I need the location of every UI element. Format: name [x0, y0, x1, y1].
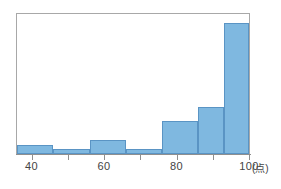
- histogram-bar: [90, 140, 126, 154]
- x-axis-tick-label: 60: [84, 160, 124, 172]
- histogram-chart: 406080100 (点): [0, 0, 281, 189]
- x-axis-tick: [68, 155, 69, 160]
- x-axis-tick: [213, 155, 214, 160]
- x-axis-unit-label: (点): [252, 160, 269, 175]
- x-axis-tick-label: 40: [12, 160, 52, 172]
- histogram-bar: [17, 145, 53, 154]
- histogram-bar: [198, 107, 223, 154]
- x-axis-tick: [140, 155, 141, 160]
- x-axis-tick-label: 80: [157, 160, 197, 172]
- histogram-bar: [224, 23, 249, 154]
- bars-layer: [17, 14, 249, 154]
- x-axis-line: [16, 154, 251, 155]
- histogram-bar: [162, 121, 198, 154]
